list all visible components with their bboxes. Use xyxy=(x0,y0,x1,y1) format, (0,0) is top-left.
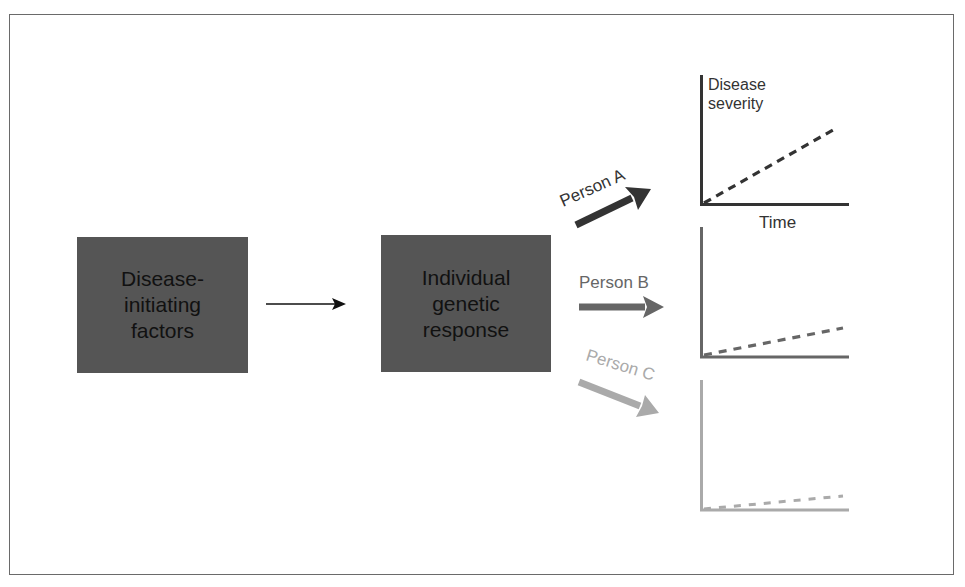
diagram-overlay: Person A Person B Person C Disease sever… xyxy=(0,0,965,587)
person-b-label: Person B xyxy=(579,273,649,292)
y-axis-label: Disease xyxy=(708,76,766,93)
severity-line xyxy=(704,130,833,203)
chart-person-b xyxy=(700,227,849,358)
x-axis-label: Time xyxy=(759,213,796,232)
severity-line xyxy=(704,496,843,509)
person-b-arrow-icon xyxy=(579,296,664,318)
chart-person-a: Disease severity Time xyxy=(700,75,849,232)
y-axis-label: severity xyxy=(708,95,763,112)
person-c-arrow-icon xyxy=(579,382,659,417)
severity-line xyxy=(704,328,843,355)
chart-person-c xyxy=(700,380,849,511)
connector-arrow-icon xyxy=(266,298,346,310)
person-c-label: Person C xyxy=(584,346,657,385)
